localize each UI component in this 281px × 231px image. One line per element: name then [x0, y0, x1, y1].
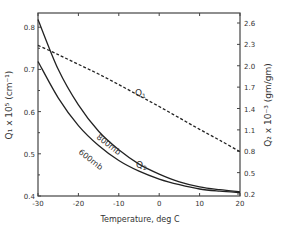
svg-text:-20: -20 — [73, 200, 84, 208]
svg-text:1.7: 1.7 — [244, 84, 255, 92]
svg-text:1.1: 1.1 — [244, 127, 255, 135]
600mb-annotation: 600mb — [77, 147, 105, 171]
q1-line — [38, 45, 240, 151]
svg-text:10: 10 — [195, 200, 204, 208]
q2-600mb-line — [38, 61, 240, 192]
svg-text:0.5: 0.5 — [244, 170, 255, 178]
svg-text:2.3: 2.3 — [244, 41, 255, 49]
svg-text:1.4: 1.4 — [244, 106, 256, 114]
svg-text:0.5: 0.5 — [24, 151, 35, 159]
svg-text:2.0: 2.0 — [244, 63, 255, 71]
svg-text:0.8: 0.8 — [24, 24, 35, 32]
q2-annotation: Q2 — [136, 160, 147, 171]
svg-text:2.6: 2.6 — [244, 20, 256, 28]
svg-text:0.7: 0.7 — [24, 66, 35, 74]
x-axis-ticks: -30-20-1001020 — [32, 13, 244, 208]
svg-text:20: 20 — [236, 200, 245, 208]
svg-text:0.4: 0.4 — [24, 193, 36, 201]
svg-text:0.6: 0.6 — [24, 109, 36, 117]
svg-text:0.8: 0.8 — [244, 148, 255, 156]
q1-annotation: Q1 — [135, 88, 146, 99]
svg-text:-10: -10 — [113, 200, 124, 208]
y-right-axis-label: Q₂ x 10⁻³ (gm/gm) — [263, 63, 273, 146]
svg-text:-30: -30 — [32, 200, 43, 208]
svg-text:0.2: 0.2 — [244, 191, 255, 199]
chart: -30-20-1001020 0.40.50.60.70.8 0.20.50.8… — [0, 0, 281, 231]
y-left-axis-label: Q₁ x 10⁵ (cm⁻¹) — [4, 71, 14, 140]
svg-text:0: 0 — [157, 200, 161, 208]
x-axis-label: Temperature, deg C — [100, 215, 180, 224]
